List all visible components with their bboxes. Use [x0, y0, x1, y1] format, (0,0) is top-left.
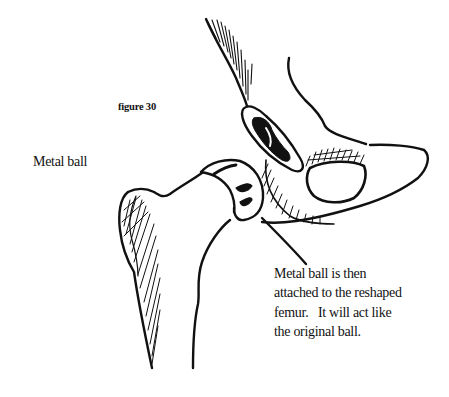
figure-canvas: figure 30 Metal ball Metal ball is then …: [0, 0, 449, 397]
acetabulum-socket: [242, 106, 303, 171]
figure-number-label: figure 30: [118, 101, 156, 112]
pelvis-hole: [306, 148, 366, 202]
caption-line: femur. It will act like: [274, 303, 449, 322]
socket-shading: [262, 160, 334, 224]
metal-ball-drawing: [201, 160, 263, 220]
metal-ball-label: Metal ball: [33, 154, 87, 170]
femur-bone: [119, 173, 230, 368]
pelvis-upper-edge: [206, 19, 252, 106]
caption-leader-line: [262, 218, 306, 264]
pelvis-outline: [262, 58, 428, 223]
caption-line: Metal ball is then: [274, 264, 449, 283]
caption-line: attached to the reshaped: [274, 283, 449, 302]
caption-text: Metal ball is then attached to the resha…: [274, 264, 449, 341]
caption-line: the original ball.: [274, 322, 449, 341]
